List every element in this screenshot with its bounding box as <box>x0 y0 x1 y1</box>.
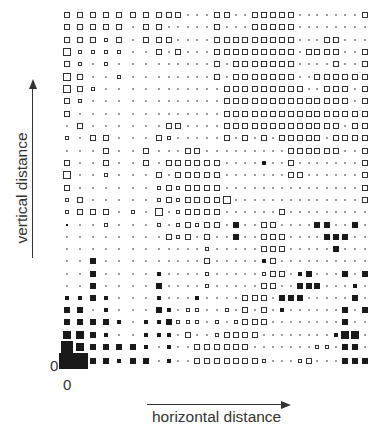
grid-cell <box>270 222 277 229</box>
grid-cell <box>261 74 266 79</box>
grid-cell <box>279 123 286 130</box>
grid-cell <box>290 236 292 238</box>
grid-cell <box>244 187 246 189</box>
grid-cell <box>261 61 266 66</box>
grid-cell <box>335 174 337 176</box>
grid-cell <box>196 76 198 78</box>
grid-cell <box>324 37 329 42</box>
grid-cell <box>342 86 347 91</box>
grid-cell <box>308 88 310 90</box>
grid-cell <box>335 360 337 362</box>
grid-cell <box>299 334 301 336</box>
grid-cell <box>226 297 228 299</box>
grid-cell <box>158 162 160 164</box>
grid-cell <box>235 248 237 250</box>
grid-cell <box>364 211 366 213</box>
grid-cell <box>308 174 310 176</box>
grid-cell <box>131 210 135 214</box>
grid-cell <box>352 358 357 363</box>
grid-cell <box>145 309 147 311</box>
grid-cell <box>299 211 301 213</box>
grid-cell <box>254 199 256 201</box>
grid-cell <box>216 309 218 311</box>
grid-cell <box>299 309 301 311</box>
grid-cell <box>194 344 201 351</box>
grid-cell <box>214 160 221 167</box>
grid-cell <box>92 113 94 115</box>
grid-cell <box>196 137 198 139</box>
grid-cell <box>299 162 301 164</box>
grid-cell <box>145 113 147 115</box>
grid-cell <box>254 174 256 176</box>
grid-cell <box>145 248 147 250</box>
grid-cell <box>145 260 147 262</box>
grid-cell <box>116 37 123 44</box>
grid-cell <box>76 343 84 351</box>
grid-cell <box>117 50 121 54</box>
grid-cell <box>92 125 94 127</box>
grid-cell <box>103 344 110 351</box>
grid-cell <box>316 199 318 201</box>
grid-cell <box>326 321 328 323</box>
grid-cell <box>145 199 147 201</box>
grid-cell <box>352 135 359 142</box>
grid-cell <box>335 309 337 311</box>
grid-cell <box>103 209 110 216</box>
grid-cell <box>354 150 356 152</box>
grid-cell <box>252 74 257 79</box>
grid-cell <box>77 86 84 93</box>
grid-cell <box>242 307 249 314</box>
grid-cell <box>270 98 277 105</box>
grid-cell <box>299 321 301 323</box>
grid-cell <box>306 111 313 118</box>
grid-cell <box>316 260 318 262</box>
grid-cell <box>118 137 120 139</box>
grid-cell <box>166 234 173 241</box>
grid-cell <box>364 236 366 238</box>
grid-cell <box>288 37 293 42</box>
grid-cell <box>270 74 275 79</box>
grid-cell <box>196 88 198 90</box>
grid-cell <box>224 332 231 339</box>
grid-cell <box>194 185 201 192</box>
grid-cell <box>354 236 356 238</box>
grid-cell <box>145 137 147 139</box>
grid-cell <box>270 123 277 130</box>
grid-cell <box>233 344 240 351</box>
grid-cell <box>344 39 346 41</box>
grid-cell <box>187 39 189 41</box>
grid-cell <box>233 111 240 118</box>
grid-cell <box>351 331 359 339</box>
grid-cell <box>194 172 201 179</box>
grid-cell <box>297 172 304 179</box>
grid-cell <box>352 344 357 349</box>
grid-cell <box>64 160 69 165</box>
grid-cell <box>344 285 346 287</box>
grid-cell <box>78 296 82 300</box>
grid-cell <box>177 248 179 250</box>
grid-cell <box>143 160 148 165</box>
grid-cell <box>279 98 286 105</box>
grid-cell <box>92 63 94 65</box>
grid-cell <box>235 162 237 164</box>
grid-cell <box>158 360 160 362</box>
grid-cell <box>145 76 147 78</box>
grid-cell <box>145 63 147 65</box>
grid-cell <box>166 37 173 44</box>
grid-cell <box>233 61 238 66</box>
grid-cell <box>335 346 337 348</box>
grid-cell <box>299 236 301 238</box>
grid-cell <box>242 74 247 79</box>
grid-cell <box>362 61 367 66</box>
grid-cell <box>252 24 259 31</box>
grid-cell <box>226 162 228 164</box>
grid-cell <box>279 49 284 54</box>
grid-cell <box>78 50 82 54</box>
grid-cell <box>316 297 318 299</box>
grid-cell <box>244 26 246 28</box>
grid-cell <box>157 320 161 324</box>
grid-cell <box>298 272 302 276</box>
grid-cell <box>316 63 318 65</box>
grid-cell <box>308 309 310 311</box>
grid-cell <box>132 174 134 176</box>
